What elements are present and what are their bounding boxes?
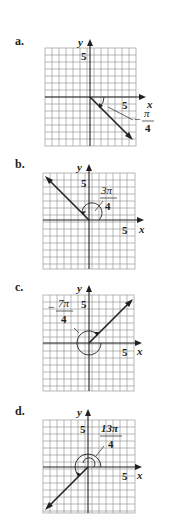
angle-diagram-c: y x 5 5 − 7π 4: [0, 276, 173, 398]
angle-denominator: 4: [61, 313, 67, 325]
y-axis-label: y: [76, 36, 83, 48]
x-tick-label: 5: [122, 346, 128, 358]
x-axis-label: x: [136, 345, 143, 357]
y-axis-arrow-icon: [87, 39, 93, 46]
terminal-side-ray: [49, 467, 88, 506]
y-axis-label: y: [75, 282, 82, 294]
y-tick-label: 5: [81, 298, 87, 310]
y-tick-label: 5: [80, 423, 86, 435]
x-tick-label: 5: [122, 224, 128, 236]
y-axis-arrow-icon: [86, 164, 92, 171]
angle-diagram-d: y x 5 5 13π 4: [0, 400, 173, 524]
y-axis-label: y: [75, 161, 82, 173]
y-axis-label: y: [75, 406, 82, 418]
leader-line: [96, 446, 104, 456]
panel-b: b. y x 5 5 3π 4: [0, 153, 173, 275]
angle-denominator: 4: [108, 438, 114, 450]
y-tick-label: 5: [81, 50, 87, 62]
y-tick-label: 5: [81, 177, 87, 189]
angle-numerator: 13π: [101, 422, 119, 434]
angle-denominator: 4: [145, 122, 151, 134]
x-axis-label: x: [136, 469, 143, 481]
angle-numerator: π: [144, 107, 150, 119]
panel-a: a. y x 5 5 − π 4: [0, 30, 173, 152]
panel-c: c. y x 5 5 − 7π 4: [0, 276, 173, 398]
x-axis-arrow-icon: [139, 94, 146, 100]
angle-sign: −: [48, 300, 55, 314]
angle-numerator: 7π: [58, 297, 70, 309]
angle-numerator: 3π: [100, 184, 113, 196]
panel-d: d. y x 5 5 13π 4: [0, 400, 173, 524]
y-axis-arrow-icon: [85, 409, 91, 416]
x-tick-label: 5: [122, 99, 128, 111]
x-axis-label: x: [138, 223, 145, 235]
x-tick-label: 5: [122, 470, 128, 482]
angle-denominator: 4: [105, 200, 111, 212]
angle-diagram-a: y x 5 5 − π 4: [0, 30, 173, 152]
angle-diagram-b: y x 5 5 3π 4: [0, 153, 173, 275]
y-axis-arrow-icon: [86, 285, 92, 292]
angle-sign: −: [134, 112, 141, 126]
